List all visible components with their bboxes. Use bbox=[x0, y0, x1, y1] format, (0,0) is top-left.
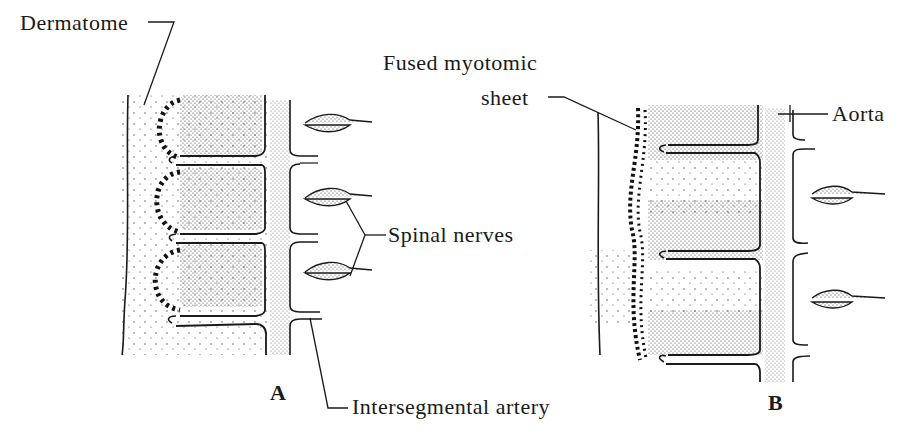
label-dermatome: Dermatome bbox=[20, 10, 128, 36]
label-fused-myotomic-sheet: Fused myotomic bbox=[383, 50, 537, 76]
intersegmental-artery-leader bbox=[310, 318, 348, 408]
panel-label-a: A bbox=[270, 380, 286, 406]
spinal-nerves-leader bbox=[346, 201, 365, 276]
panel-label-b: B bbox=[768, 390, 783, 416]
aorta-leader bbox=[778, 105, 828, 122]
label-spinal-nerves: Spinal nerves bbox=[388, 222, 514, 248]
panel-a-drawing bbox=[122, 92, 372, 355]
panel-b-drawing bbox=[590, 105, 885, 383]
label-fused-myotomic-sheet-2: sheet bbox=[481, 85, 529, 111]
label-aorta: Aorta bbox=[832, 101, 885, 127]
label-intersegmental-artery: Intersegmental artery bbox=[352, 394, 550, 420]
fused-myotomic-sheet-leader bbox=[548, 97, 636, 130]
